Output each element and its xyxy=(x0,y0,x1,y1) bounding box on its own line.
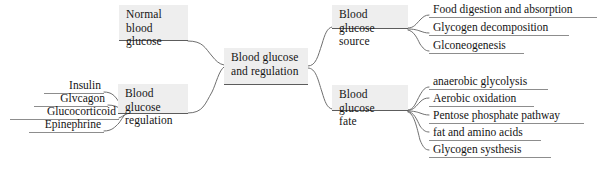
node-blood-glucose-fate[interactable]: Blood glucose fate xyxy=(332,85,408,111)
leaf-glconeogenesis[interactable]: Glconeogenesis xyxy=(429,39,524,54)
mind-map-canvas: Normal blood glucose Blood glucose and r… xyxy=(0,0,607,171)
leaf-glycogen-decomposition[interactable]: Glycogen decomposition xyxy=(429,21,569,36)
leaf-anaerobic-glycolysis[interactable]: anaerobic glycolysis xyxy=(429,75,548,90)
leaf-food-digestion-and-absorption[interactable]: Food digestion and absorption xyxy=(429,3,597,18)
leaf-glycogen-systhesis[interactable]: Glycogen systhesis xyxy=(429,143,551,158)
leaf-pentose-phosphate-pathway[interactable]: Pentose phosphate pathway xyxy=(429,109,584,124)
node-center-blood-glucose-and-regulation[interactable]: Blood glucose and regulation xyxy=(224,48,308,85)
node-blood-glucose-regulation[interactable]: Blood glucose regulation xyxy=(118,84,188,114)
leaf-epinephrine[interactable]: Epinephrine xyxy=(29,118,104,133)
node-normal-blood-glucose[interactable]: Normal blood glucose xyxy=(119,5,188,41)
node-blood-glucose-source[interactable]: Blood glucose source xyxy=(332,5,408,29)
leaf-fat-and-amino-acids[interactable]: fat and amino acids xyxy=(429,126,541,141)
leaf-aerobic-oxidation[interactable]: Aerobic oxidation xyxy=(429,92,534,107)
